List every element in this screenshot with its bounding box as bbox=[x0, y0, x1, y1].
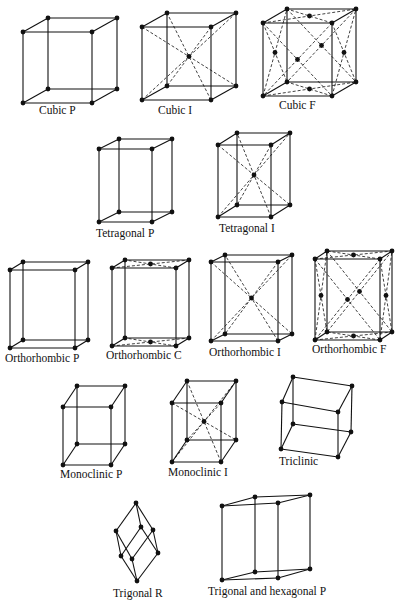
cell-orthorhombic-p bbox=[8, 260, 91, 351]
lattice-point bbox=[220, 578, 225, 583]
label-triclinic: Triclinic bbox=[279, 455, 318, 467]
cell-cubic-i bbox=[140, 11, 239, 103]
lattice-point bbox=[308, 493, 313, 498]
lattice-point bbox=[342, 50, 347, 55]
lattice-point bbox=[220, 504, 225, 509]
lattice-point bbox=[75, 442, 80, 447]
lattice-point bbox=[319, 43, 324, 48]
lattice-point bbox=[115, 16, 120, 21]
lattice-point bbox=[150, 220, 155, 225]
label-tetragonal-i: Tetragonal I bbox=[219, 222, 275, 234]
lattice-point bbox=[307, 87, 312, 92]
lattice-point bbox=[234, 438, 239, 443]
lattice-point bbox=[123, 384, 128, 389]
lattice-point bbox=[308, 567, 313, 572]
label-cubic-p: Cubic P bbox=[39, 104, 76, 116]
lattice-point bbox=[135, 579, 140, 584]
label-orthorhombic-f: Orthorhombic F bbox=[312, 343, 386, 355]
lattice-point bbox=[117, 137, 122, 142]
lattice-point bbox=[139, 525, 144, 530]
lattice-point bbox=[73, 268, 78, 273]
lattice-point bbox=[151, 528, 156, 533]
lattice-point bbox=[119, 554, 124, 559]
lattice-point bbox=[86, 260, 91, 265]
cell-orthorhombic-c bbox=[110, 258, 192, 349]
lattice-point bbox=[130, 557, 135, 562]
lattice-point bbox=[21, 101, 26, 106]
lattice-point bbox=[319, 293, 324, 298]
lattice-point bbox=[8, 346, 13, 351]
lattice-point bbox=[291, 422, 296, 427]
label-monoclinic-i: Monoclinic I bbox=[168, 466, 228, 478]
lattice-point bbox=[115, 87, 120, 92]
label-orthorhombic-i: Orthorhombic I bbox=[209, 346, 281, 358]
lattice-point bbox=[276, 501, 281, 506]
label-cubic-f: Cubic F bbox=[279, 99, 316, 111]
cell-orthorhombic-f bbox=[313, 249, 395, 343]
lattice-point bbox=[336, 455, 341, 460]
lattice-point bbox=[345, 297, 350, 302]
lattice-point bbox=[336, 410, 341, 415]
lattice-point bbox=[97, 147, 102, 152]
label-orthorhombic-p: Orthorhombic P bbox=[5, 352, 79, 364]
lattice-point bbox=[75, 384, 80, 389]
lattice-point bbox=[134, 501, 139, 506]
cell-tetragonal-i bbox=[216, 131, 293, 220]
lattice-point bbox=[235, 203, 240, 208]
lattice-point bbox=[351, 334, 356, 339]
lattice-point bbox=[307, 14, 312, 19]
cell-monoclinic-p bbox=[61, 384, 128, 468]
lattice-point bbox=[273, 50, 278, 55]
lattice-point bbox=[109, 405, 114, 410]
lattice-point bbox=[291, 375, 296, 380]
lattice-point bbox=[170, 210, 175, 215]
lattice-point bbox=[187, 54, 192, 59]
label-cubic-i: Cubic I bbox=[158, 104, 192, 116]
lattice-point bbox=[249, 296, 254, 301]
lattice-point bbox=[156, 551, 161, 556]
lattice-point bbox=[350, 384, 355, 389]
lattice-point bbox=[252, 173, 257, 178]
lattice-point bbox=[351, 253, 356, 258]
label-hexagonal-p: Trigonal and hexagonal P bbox=[208, 585, 326, 597]
lattice-point bbox=[384, 293, 389, 298]
lattice-point bbox=[61, 405, 66, 410]
lattice-point bbox=[276, 576, 281, 581]
label-trigonal-r: Trigonal R bbox=[113, 587, 163, 599]
lattice-point bbox=[357, 289, 362, 294]
lattice-point bbox=[97, 220, 102, 225]
label-orthorhombic-c: Orthorhombic C bbox=[106, 349, 182, 361]
lattice-point bbox=[349, 430, 354, 435]
lattice-point bbox=[21, 338, 26, 343]
lattice-point bbox=[253, 495, 258, 500]
lattice-point bbox=[253, 570, 258, 575]
cell-orthorhombic-i bbox=[209, 253, 295, 344]
lattice-point bbox=[61, 463, 66, 468]
label-monoclinic-p: Monoclinic P bbox=[60, 468, 122, 480]
lattice-point bbox=[90, 30, 95, 35]
lattice-point bbox=[109, 463, 114, 468]
lattice-point bbox=[8, 268, 13, 273]
lattice-point bbox=[73, 346, 78, 351]
cell-monoclinic-i bbox=[170, 379, 239, 465]
lattice-point bbox=[148, 340, 153, 345]
lattice-point bbox=[202, 419, 207, 424]
cell-trigonal-r bbox=[114, 501, 161, 584]
cell-hexagonal-p bbox=[220, 493, 313, 583]
lattice-point bbox=[148, 262, 153, 267]
cell-triclinic bbox=[279, 375, 355, 460]
lattice-point bbox=[90, 101, 95, 106]
lattice-point bbox=[280, 400, 285, 405]
lattice-point bbox=[150, 147, 155, 152]
label-tetragonal-p: Tetragonal P bbox=[96, 227, 154, 239]
lattice-point bbox=[114, 529, 119, 534]
lattice-point bbox=[170, 137, 175, 142]
bravais-lattice-diagram bbox=[0, 0, 402, 604]
lattice-point bbox=[21, 30, 26, 35]
cell-cubic-p bbox=[21, 16, 120, 106]
lattice-point bbox=[117, 210, 122, 215]
lattice-point bbox=[123, 442, 128, 447]
lattice-point bbox=[21, 260, 26, 265]
lattice-point bbox=[279, 447, 284, 452]
cell-cubic-f bbox=[261, 7, 359, 99]
